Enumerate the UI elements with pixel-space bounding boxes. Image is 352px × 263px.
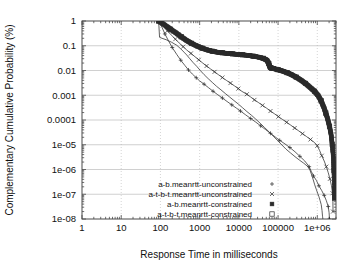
- legend-label: a-t-b-t.meanrtt-constrained: [157, 210, 252, 219]
- y-tick-label: 0.001: [52, 90, 76, 101]
- x-tick-label: 10: [116, 222, 127, 233]
- x-axis-title: Response Time in milliseconds: [140, 249, 277, 260]
- x-tick-labels: 1101001000100001000001e+06: [79, 222, 330, 233]
- y-tick-label: 1e-05: [52, 139, 76, 150]
- y-tick-label: 0.01: [58, 65, 77, 76]
- y-tick-label: 1: [71, 15, 76, 26]
- x-tick-label: 100: [153, 222, 169, 233]
- legend-label: a-b.meanrtt-constrained: [167, 200, 252, 209]
- y-tick-label: 1e-08: [52, 213, 76, 224]
- marker-filled-square: [270, 202, 274, 206]
- x-tick-label: 100000: [262, 222, 294, 233]
- x-tick-label: 1000: [189, 222, 210, 233]
- x-tick-label: 1: [79, 222, 84, 233]
- x-tick-label: 10000: [226, 222, 252, 233]
- y-tick-label: 0.0001: [47, 114, 76, 125]
- legend-label: a-b.meanrtt-unconstrained: [158, 180, 252, 189]
- y-tick-label: 0.1: [63, 40, 76, 51]
- ccdf-log-log-plot: 1101001000100001000001e+06 10.10.010.001…: [0, 0, 352, 263]
- chart-figure: 1101001000100001000001e+06 10.10.010.001…: [0, 0, 352, 263]
- legend-label: a-t-b-t.meanrtt-unconstrained: [148, 190, 252, 199]
- y-tick-label: 1e-06: [52, 164, 76, 175]
- y-axis-title: Complementary Cumulative Probability (%): [4, 24, 15, 215]
- x-tick-label: 1e+06: [304, 222, 331, 233]
- y-tick-label: 1e-07: [52, 189, 76, 200]
